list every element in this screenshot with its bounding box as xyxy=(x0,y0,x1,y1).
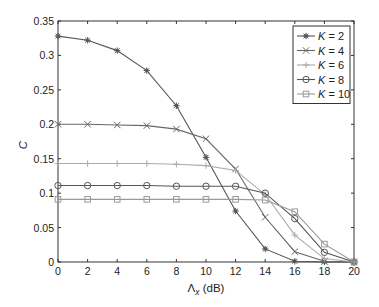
data-point-star xyxy=(84,37,90,43)
legend: K = 2K = 4K = 6K = 8K = 10 xyxy=(293,26,350,104)
y-tick-label: 0.25 xyxy=(34,84,55,96)
line-chart: 0246810121416182000.050.10.150.20.250.30… xyxy=(0,0,379,307)
data-point-star xyxy=(114,47,120,53)
legend-label: K = 4 xyxy=(318,45,344,57)
x-tick-label: 4 xyxy=(114,265,120,277)
data-point-star xyxy=(173,102,179,108)
x-tick-label: 20 xyxy=(348,265,360,277)
legend-label: K = 8 xyxy=(318,74,344,86)
y-tick-label: 0.05 xyxy=(34,222,55,234)
data-point-star xyxy=(303,33,309,39)
x-tick-label: 14 xyxy=(259,265,271,277)
legend-label: K = 6 xyxy=(318,59,344,71)
data-point-star xyxy=(55,33,61,39)
data-point-star xyxy=(292,258,298,264)
x-tick-label: 12 xyxy=(230,265,242,277)
x-tick-label: 16 xyxy=(289,265,301,277)
data-point-star xyxy=(144,67,150,73)
y-tick-label: 0.35 xyxy=(34,15,55,27)
y-tick-label: 0 xyxy=(48,256,54,268)
legend-label: K = 10 xyxy=(318,88,350,100)
data-point-star xyxy=(232,208,238,214)
x-axis-label: Λx (dB) xyxy=(188,282,225,297)
y-tick-label: 0.15 xyxy=(34,153,55,165)
x-tick-label: 0 xyxy=(55,265,61,277)
x-tick-label: 10 xyxy=(200,265,212,277)
y-tick-label: 0.2 xyxy=(39,118,54,130)
x-tick-label: 8 xyxy=(173,265,179,277)
x-tick-label: 18 xyxy=(319,265,331,277)
y-axis-label: C xyxy=(17,140,29,149)
legend-label: K = 2 xyxy=(318,30,344,42)
x-tick-label: 2 xyxy=(85,265,91,277)
y-tick-label: 0.1 xyxy=(39,187,54,199)
data-point-star xyxy=(262,246,268,252)
y-tick-label: 0.3 xyxy=(39,49,54,61)
x-tick-label: 6 xyxy=(144,265,150,277)
data-point-star xyxy=(203,154,209,160)
